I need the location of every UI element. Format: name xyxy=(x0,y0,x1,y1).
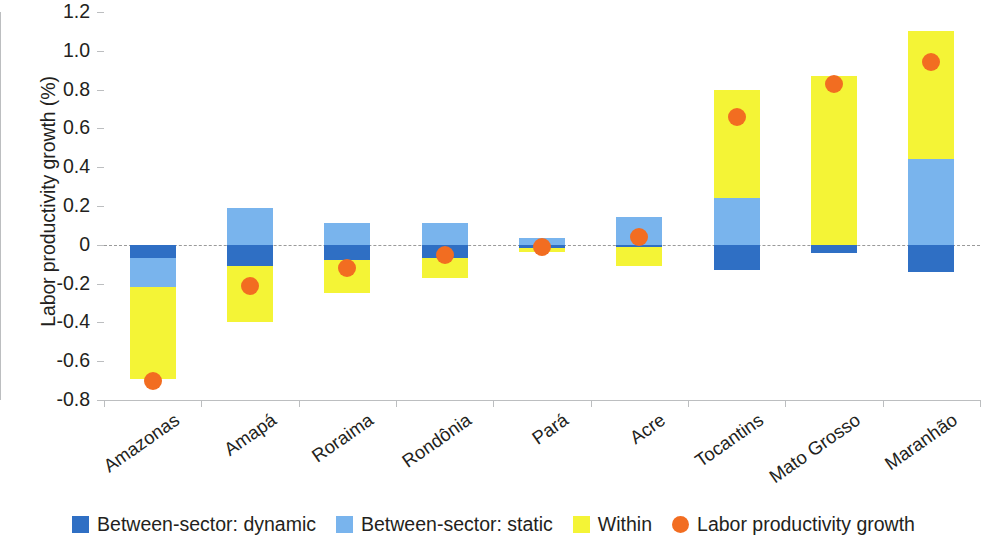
bar-segment xyxy=(811,76,857,245)
bar-group xyxy=(519,0,565,549)
bar-segment xyxy=(908,245,954,272)
y-tick-label: 0 xyxy=(0,235,90,255)
bar-group xyxy=(130,0,176,549)
data-point-marker xyxy=(728,108,746,126)
y-tick-label: 0.2 xyxy=(0,196,90,216)
data-point-marker xyxy=(144,372,162,390)
legend-item[interactable]: Within xyxy=(573,513,652,536)
legend-item-label: Within xyxy=(598,513,652,536)
y-tick-label: 1.0 xyxy=(0,41,90,61)
y-tick-mark xyxy=(97,322,104,323)
data-point-marker xyxy=(533,238,551,256)
chart-container: Labor productivity growth (%) 1.21.00.80… xyxy=(0,0,987,549)
legend-item[interactable]: Labor productivity growth xyxy=(672,513,915,536)
x-tick-mark xyxy=(396,400,397,407)
bar-segment xyxy=(130,245,176,259)
bar-segment xyxy=(908,31,954,159)
bar-segment xyxy=(130,258,176,287)
legend-item[interactable]: Between-sector: static xyxy=(336,513,553,536)
chart-legend: Between-sector: dynamicBetween-sector: s… xyxy=(0,513,987,536)
bar-segment xyxy=(616,247,662,266)
y-tick-label: -0.2 xyxy=(0,274,90,294)
y-tick-mark xyxy=(97,361,104,362)
bar-segment xyxy=(714,198,760,245)
legend-square-icon xyxy=(336,516,353,533)
legend-item-label: Between-sector: dynamic xyxy=(97,513,316,536)
x-tick-mark xyxy=(104,400,105,407)
bar-segment xyxy=(227,208,273,245)
legend-item-label: Between-sector: static xyxy=(361,513,553,536)
y-tick-label: 0.6 xyxy=(0,118,90,138)
y-tick-mark xyxy=(97,12,104,13)
x-tick-mark xyxy=(688,400,689,407)
data-point-marker xyxy=(825,75,843,93)
bar-segment xyxy=(324,245,370,261)
bar-segment xyxy=(422,223,468,244)
bar-segment xyxy=(811,245,857,253)
x-tick-mark xyxy=(299,400,300,407)
x-tick-mark xyxy=(785,400,786,407)
y-tick-mark xyxy=(97,245,104,246)
y-tick-label: 0.4 xyxy=(0,157,90,177)
bar-segment xyxy=(714,245,760,270)
x-tick-mark xyxy=(591,400,592,407)
y-tick-mark xyxy=(97,206,104,207)
bar-group xyxy=(616,0,662,549)
legend-item[interactable]: Between-sector: dynamic xyxy=(72,513,316,536)
bar-group xyxy=(227,0,273,549)
bar-group xyxy=(714,0,760,549)
bar-group xyxy=(422,0,468,549)
data-point-marker xyxy=(241,277,259,295)
x-tick-mark xyxy=(493,400,494,407)
legend-circle-icon xyxy=(672,516,689,533)
y-tick-mark xyxy=(97,51,104,52)
bar-group xyxy=(908,0,954,549)
y-tick-mark xyxy=(97,400,104,401)
legend-square-icon xyxy=(573,516,590,533)
x-tick-mark xyxy=(980,400,981,407)
x-tick-mark xyxy=(883,400,884,407)
x-tick-mark xyxy=(201,400,202,407)
y-tick-mark xyxy=(97,90,104,91)
y-tick-label: -0.6 xyxy=(0,351,90,371)
y-tick-mark xyxy=(97,284,104,285)
y-tick-label: 1.2 xyxy=(0,2,90,22)
legend-square-icon xyxy=(72,516,89,533)
y-tick-mark xyxy=(97,128,104,129)
bar-segment xyxy=(324,223,370,244)
data-point-marker xyxy=(436,246,454,264)
bar-segment xyxy=(714,90,760,199)
y-tick-mark xyxy=(97,167,104,168)
bar-segment xyxy=(908,159,954,244)
y-tick-label: 0.8 xyxy=(0,80,90,100)
y-tick-label: -0.8 xyxy=(0,390,90,410)
legend-item-label: Labor productivity growth xyxy=(697,513,915,536)
bar-segment xyxy=(227,245,273,266)
y-tick-label: -0.4 xyxy=(0,312,90,332)
bar-segment xyxy=(130,287,176,378)
